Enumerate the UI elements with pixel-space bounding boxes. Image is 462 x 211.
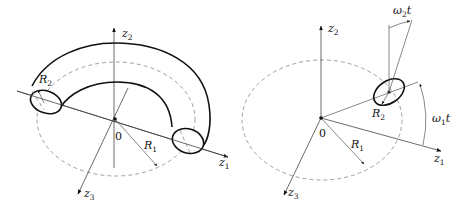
omega2-arc: [389, 21, 410, 28]
z2-label-left: z2: [121, 27, 133, 42]
origin-dot-left: [113, 117, 117, 121]
omega1-label: ω1t: [432, 112, 451, 127]
z1-axis-left-overlay: [17, 91, 228, 157]
left-figure-torus: z2 z1 z3 0 R1 R2: [17, 27, 230, 202]
z2-label-right: z2: [327, 22, 339, 37]
major-circle-right: [242, 60, 402, 180]
origin-label-right: 0: [319, 127, 326, 140]
z3-axis-right: [284, 118, 321, 195]
r1-label-left: R1: [143, 139, 157, 154]
z3-label-left: z3: [83, 187, 95, 202]
minor-tilted-line: [389, 20, 412, 92]
r1-label-right: R1: [350, 138, 364, 153]
right-figure-angles: z2 z1 z3 0 R1 R2 ω2t ω1t: [242, 4, 451, 201]
torus-cross-section-left: [27, 86, 65, 118]
z1-label-left: z1: [218, 156, 230, 171]
torus-cross-section-right: [169, 125, 207, 158]
r2-label-right: R2: [371, 107, 385, 122]
torus-diagram: z2 z1 z3 0 R1 R2: [0, 0, 462, 211]
rotated-radius-line: [321, 82, 418, 118]
z1-label-right: z1: [433, 152, 445, 167]
r2-label-left: R2: [38, 73, 52, 88]
z1-axis-right: [321, 118, 441, 151]
omega2-label: ω2t: [393, 4, 412, 19]
z3-label-right: z3: [287, 186, 299, 201]
origin-label-left: 0: [115, 130, 122, 143]
omega1-arc: [420, 84, 426, 145]
origin-dot-right: [319, 116, 323, 120]
